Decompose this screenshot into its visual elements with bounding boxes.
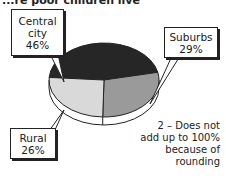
callout-label: Central (12, 15, 63, 27)
callout-value: 26% (11, 144, 55, 156)
central-city-callout: Central city 46% (11, 9, 64, 56)
callout-label: Rural (11, 132, 55, 144)
suburbs-callout: Suburbs 29% (164, 27, 218, 58)
pie-top (49, 43, 159, 117)
callout-label: Suburbs (165, 31, 217, 43)
rounding-footnote: 2 – Does not add up to 100% because of r… (140, 120, 220, 168)
pie-slice-rural (49, 77, 104, 117)
callout-value: 29% (165, 43, 217, 55)
rural-callout: Rural 26% (10, 128, 56, 159)
pie-slice-suburbs (103, 72, 159, 117)
callout-label: city (12, 27, 63, 39)
callout-value: 46% (12, 39, 63, 51)
